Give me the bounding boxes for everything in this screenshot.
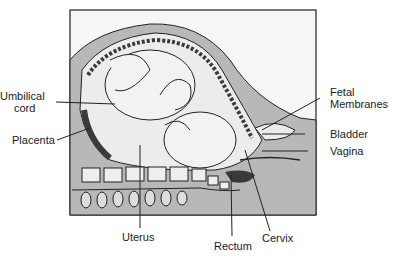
label-rectum: Rectum (214, 240, 252, 252)
label-vagina: Vagina (330, 145, 363, 157)
label-umbilical-cord-line2: cord (14, 102, 35, 114)
label-uterus: Uterus (122, 231, 154, 243)
label-fetal-membranes-line1: Fetal (330, 86, 354, 98)
fetus-head (164, 112, 236, 168)
label-bladder: Bladder (330, 128, 368, 140)
label-cervix: Cervix (262, 232, 293, 244)
label-umbilical-cord-line1: Umbilical (0, 90, 45, 102)
label-placenta: Placenta (12, 134, 55, 146)
label-fetal-membranes-line2: Membranes (330, 98, 388, 110)
